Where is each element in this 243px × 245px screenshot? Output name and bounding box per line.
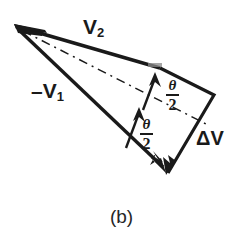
label-theta-half-lower: θ 2 [140,117,153,152]
figure-container: V2 –V1 ΔV θ 2 θ 2 (b) [0,0,243,245]
label-theta-half-upper: θ 2 [166,78,179,113]
label-v2-subscript: 2 [97,25,104,40]
theta-upper-numerator: θ [166,78,179,94]
label-negative-v1-subscript: 1 [57,89,64,104]
label-negative-v1-symbol: V [43,79,57,102]
vertex-tick-top-right [148,63,162,67]
label-negative-v1: –V1 [31,80,64,103]
theta-lower-numerator: θ [140,117,153,133]
arrowhead-theta-upper [149,72,161,87]
label-negative-v1-prefix: – [31,79,43,102]
theta-upper-denominator: 2 [166,96,179,113]
label-v2-symbol: V [83,15,97,38]
label-v2: V2 [83,16,104,39]
figure-caption: (b) [0,206,243,228]
theta-lower-denominator: 2 [140,135,153,152]
angle-marker-theta-half-upper [143,72,161,110]
label-delta-v: ΔV [196,128,224,148]
